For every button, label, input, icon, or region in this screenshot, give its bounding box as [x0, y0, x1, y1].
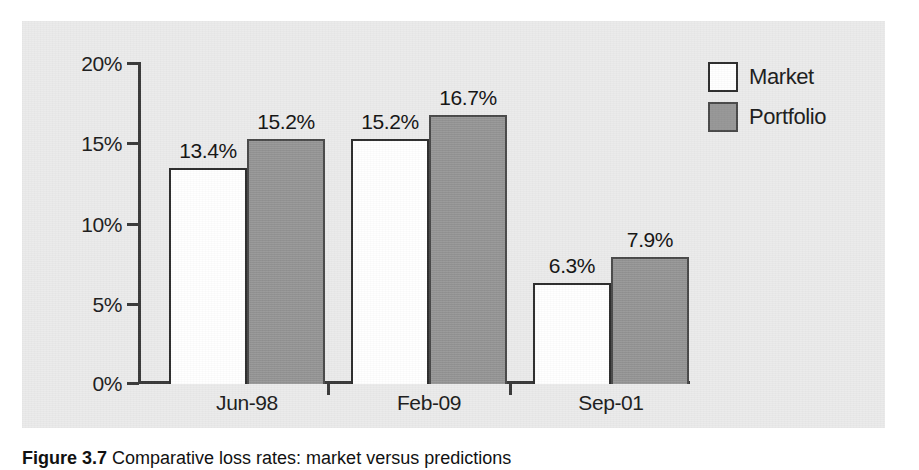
legend-swatch-market-icon [708, 62, 738, 92]
y-axis-label-0: 0% [54, 372, 122, 396]
bar-value-label-market-feb-09: 15.2% [329, 110, 451, 134]
figure-caption-number: Figure 3.7 [22, 448, 107, 468]
bar-value-label-market-jun-98: 13.4% [147, 139, 269, 163]
bar-value-label-portfolio-feb-09: 16.7% [407, 86, 529, 110]
y-axis-label-5: 5% [54, 293, 122, 317]
bar-value-label-portfolio-sep-01: 7.9% [589, 228, 711, 252]
bar-portfolio-jun-98[interactable] [247, 139, 325, 384]
legend-swatch-portfolio-icon [708, 102, 738, 132]
x-axis-category-label-2: Sep-01 [531, 391, 691, 415]
figure-panel: 20% 15% 10% 5% 0% 13.4% 15.2% Jun-98 [22, 21, 885, 428]
x-axis-category-label-1: Feb-09 [349, 391, 509, 415]
bar-portfolio-feb-09[interactable] [429, 115, 507, 384]
figure-caption: Figure 3.7 Comparative loss rates: marke… [22, 446, 902, 470]
legend-item-portfolio[interactable]: Portfolio [708, 97, 878, 137]
bar-chart-plot-area: 20% 15% 10% 5% 0% 13.4% 15.2% Jun-98 [22, 21, 885, 428]
x-axis-tick-2 [509, 384, 512, 395]
y-axis-tick-15 [127, 142, 139, 145]
y-axis-tick-20 [127, 62, 139, 65]
legend-label-portfolio: Portfolio [749, 104, 826, 130]
bar-market-feb-09[interactable] [351, 139, 429, 384]
chart-legend: Market Portfolio [708, 57, 878, 137]
y-axis-label-15: 15% [54, 132, 122, 156]
legend-label-market: Market [749, 64, 814, 90]
y-axis-tick-10 [127, 223, 139, 226]
bar-market-sep-01[interactable] [533, 283, 611, 384]
figure-caption-text: Comparative loss rates: market versus pr… [112, 448, 511, 468]
y-axis-tick-0 [127, 382, 139, 385]
x-axis-category-label-0: Jun-98 [167, 391, 327, 415]
y-axis-tick-5 [127, 303, 139, 306]
bar-value-label-market-sep-01: 6.3% [511, 254, 633, 278]
x-axis-tick-1 [327, 384, 330, 395]
bar-market-jun-98[interactable] [169, 168, 247, 384]
legend-item-market[interactable]: Market [708, 57, 878, 97]
y-axis-label-10: 10% [54, 213, 122, 237]
y-axis-label-20: 20% [54, 52, 122, 76]
